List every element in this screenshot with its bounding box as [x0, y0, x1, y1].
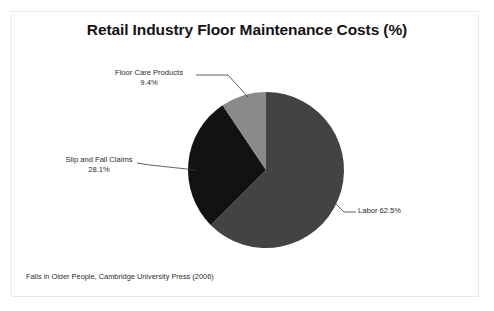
slice-label-slip-and-fall-claims: Slip and Fall Claims 28.1%: [36, 155, 162, 175]
pie-chart-figure: Retail Industry Floor Maintenance Costs …: [0, 0, 494, 311]
slice-label-labor: Labor 62.5%: [358, 206, 401, 216]
plot-area: Floor Care Products 9.4% Slip and Fall C…: [0, 0, 494, 311]
slice-label-slip-and-fall-claims-value: 28.1%: [36, 165, 162, 175]
slice-label-slip-and-fall-claims-name: Slip and Fall Claims: [36, 155, 162, 165]
slice-label-floor-care-products-name: Floor Care Products: [88, 68, 210, 78]
slice-label-labor-text: Labor 62.5%: [358, 206, 401, 216]
slice-label-floor-care-products: Floor Care Products 9.4%: [88, 68, 210, 88]
source-caption: Falls in Older People, Cambridge Univers…: [26, 272, 214, 281]
slice-label-floor-care-products-value: 9.4%: [88, 78, 210, 88]
